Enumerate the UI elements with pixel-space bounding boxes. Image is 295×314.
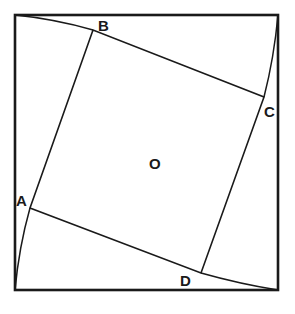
- outer-square: [15, 15, 278, 290]
- arc-bottom-left-to-a: [15, 208, 30, 290]
- diagram-canvas: [0, 0, 295, 314]
- label-vertex-a: A: [16, 193, 27, 208]
- label-vertex-d: D: [180, 273, 191, 288]
- arc-top-left-to-b: [15, 15, 93, 30]
- label-center-o: O: [149, 156, 161, 171]
- label-vertex-c: C: [264, 104, 275, 119]
- arc-top-right-to-c: [264, 15, 278, 97]
- inner-square-abcd: [30, 30, 264, 273]
- arc-bottom-right-to-d: [201, 273, 278, 290]
- label-vertex-b: B: [98, 18, 109, 33]
